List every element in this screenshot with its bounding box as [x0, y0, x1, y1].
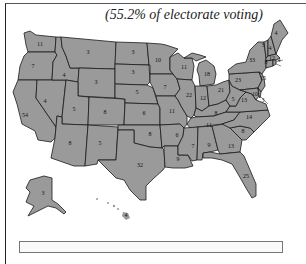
state-ev-label: 4 [44, 98, 47, 104]
state-ev-label: 13 [241, 97, 247, 103]
state-ev-label: 21 [218, 87, 224, 93]
state-ev-label: 10 [155, 57, 161, 63]
state-ev-label: 3 [132, 69, 135, 75]
state-ev-label: 32 [137, 162, 143, 168]
state-ev-label: 3 [132, 49, 135, 55]
state-new-york[interactable] [228, 42, 266, 74]
state-ev-label: 5 [232, 96, 235, 102]
state-ev-label: 11 [181, 64, 187, 70]
state-ev-label: 8 [69, 140, 72, 146]
state-ev-label: 23 [235, 77, 241, 83]
state-ev-label: 7 [164, 84, 167, 90]
state-ev-label: 3 [262, 97, 265, 103]
state-ev-label: 22 [186, 92, 192, 98]
state-ev-label: 4 [125, 212, 128, 218]
state-ev-label: 5 [136, 89, 139, 95]
state-ev-label: 7 [192, 143, 195, 149]
state-ev-label: 6 [143, 110, 146, 116]
state-ev-label: 25 [243, 173, 249, 179]
state-ev-label: 3 [42, 190, 45, 196]
state-pennsylvania[interactable] [229, 72, 262, 90]
state-oregon[interactable] [18, 52, 57, 80]
state-ev-label: 8 [242, 128, 245, 134]
state-alaska[interactable] [26, 176, 66, 216]
state-ev-label: 9 [177, 156, 180, 162]
state-ev-label: 3 [262, 42, 265, 48]
state-ev-label: 54 [22, 112, 28, 118]
state-ev-label: 12 [269, 55, 275, 61]
state-ev-label: 3 [87, 49, 90, 55]
state-ev-label: 4 [269, 45, 272, 51]
state-ev-label: 8 [149, 131, 152, 137]
state-ev-label: 8 [215, 110, 218, 116]
state-ev-label: 12 [200, 95, 206, 101]
state-colorado[interactable] [88, 97, 125, 125]
state-ev-label: 15 [260, 75, 266, 81]
state-ev-label: 33 [249, 57, 255, 63]
state-ev-label: 4 [278, 57, 281, 63]
state-ev-label: 6 [176, 132, 179, 138]
state-ev-label: 4 [63, 72, 66, 78]
state-ev-label: 18 [204, 71, 210, 77]
state-ev-label: 9 [208, 142, 211, 148]
state-ev-label: 10 [252, 91, 258, 97]
state-ev-label: 3 [95, 79, 98, 85]
state-ev-label: 11 [37, 41, 43, 47]
state-ev-label: 13 [228, 143, 234, 149]
legend-box [19, 241, 283, 253]
state-ev-label: 11 [206, 122, 212, 128]
state-ev-label: 14 [246, 114, 252, 120]
state-ev-label: 5 [99, 140, 102, 146]
state-ev-label: 5 [73, 106, 76, 112]
state-ev-label: 7 [32, 63, 35, 69]
state-ev-label: 11 [169, 108, 175, 114]
state-ev-label: 4 [275, 30, 278, 36]
state-ev-label: 8 [104, 109, 107, 115]
state-ev-label: 8 [265, 59, 268, 65]
